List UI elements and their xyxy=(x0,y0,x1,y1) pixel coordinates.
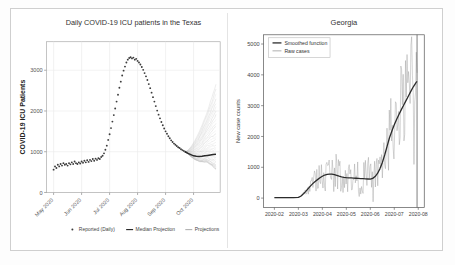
data-point xyxy=(53,169,55,171)
data-point xyxy=(153,101,155,103)
data-point xyxy=(118,87,120,89)
xtick-label: 2020-03 xyxy=(289,211,308,217)
data-point xyxy=(137,60,139,62)
xtick-label: Aug 2020 xyxy=(118,197,138,217)
legend-label: Reported (Daily) xyxy=(79,227,115,232)
data-point xyxy=(138,62,140,64)
data-point xyxy=(172,141,174,143)
data-point xyxy=(148,83,150,85)
data-point xyxy=(155,105,157,107)
data-point xyxy=(124,66,126,68)
data-point xyxy=(76,163,78,165)
data-point xyxy=(163,128,165,130)
ytick-label: 3000 xyxy=(247,103,259,109)
data-point xyxy=(72,163,74,165)
chart-legend: Reported (Daily)Median ProjectionProject… xyxy=(71,227,219,232)
ytick-label: 2000 xyxy=(30,108,42,114)
data-point xyxy=(110,127,112,129)
data-point xyxy=(102,155,104,157)
chart-panel-georgia-cases: Georgia010002000300040005000New case cou… xyxy=(227,9,442,250)
xtick-label: 2020-02 xyxy=(265,211,284,217)
data-point xyxy=(165,130,167,132)
data-point xyxy=(169,137,171,139)
data-point xyxy=(69,163,71,165)
data-point xyxy=(151,92,153,94)
data-point xyxy=(82,162,84,164)
data-point xyxy=(145,75,147,77)
ytick-label: 0 xyxy=(40,190,43,196)
y-axis-label: COVID-19 ICU Patients xyxy=(19,80,26,155)
data-point xyxy=(135,58,137,60)
data-point xyxy=(83,160,85,162)
data-point xyxy=(86,159,88,161)
data-point xyxy=(61,165,63,167)
data-point xyxy=(74,161,76,163)
data-point xyxy=(88,161,90,163)
chart-title: Daily COVID-19 ICU patients in the Texas xyxy=(66,18,202,27)
data-point xyxy=(142,69,144,71)
figure-frame: Daily COVID-19 ICU patients in the Texas… xyxy=(10,8,443,251)
data-point xyxy=(167,135,169,137)
xtick-label: 2020-04 xyxy=(313,211,332,217)
data-point xyxy=(144,72,146,74)
data-point xyxy=(103,152,105,154)
data-point xyxy=(67,165,69,167)
data-point xyxy=(159,117,161,119)
data-point xyxy=(92,158,94,160)
xtick-label: Jul 2020 xyxy=(92,197,111,216)
data-point xyxy=(121,75,123,77)
data-point xyxy=(146,79,148,81)
data-point xyxy=(71,161,73,163)
data-point xyxy=(60,163,62,165)
xtick-label: Jun 2020 xyxy=(63,197,83,217)
ytick-label: 4000 xyxy=(247,72,259,78)
data-point xyxy=(132,57,134,59)
data-point xyxy=(96,159,98,161)
figure-root: Daily COVID-19 ICU patients in the Texas… xyxy=(0,0,455,265)
data-point xyxy=(127,59,129,61)
xtick-label: 2020-05 xyxy=(337,211,356,217)
chart-panel-texas-icu: Daily COVID-19 ICU patients in the Texas… xyxy=(13,9,227,250)
xtick-label: Sep 2020 xyxy=(146,197,166,217)
data-point xyxy=(111,121,113,123)
data-point xyxy=(139,64,141,66)
ytick-label: 1000 xyxy=(247,164,259,170)
data-point xyxy=(156,110,158,112)
data-point xyxy=(116,101,118,103)
data-point xyxy=(123,70,125,72)
data-point xyxy=(158,114,160,116)
data-point xyxy=(170,139,172,141)
ytick-label: 1000 xyxy=(30,149,42,155)
data-point xyxy=(93,160,95,162)
data-point xyxy=(120,81,122,83)
data-point xyxy=(114,108,116,110)
georgia-cases-chart-svg: Georgia010002000300040005000New case cou… xyxy=(227,9,442,250)
data-point xyxy=(90,160,92,162)
ytick-label: 5000 xyxy=(247,41,259,47)
legend-label: Median Projection xyxy=(136,227,176,232)
data-point xyxy=(152,96,154,98)
xtick-label: Oct 2020 xyxy=(175,197,195,217)
data-point xyxy=(162,124,164,126)
xtick-label: 2020-06 xyxy=(361,211,380,217)
data-point xyxy=(99,158,101,160)
data-point xyxy=(79,163,81,165)
chart-legend: Smoothed functionRaw cases xyxy=(269,38,330,58)
data-point xyxy=(141,66,143,68)
ytick-label: 2000 xyxy=(247,134,259,140)
data-point xyxy=(106,145,108,147)
data-point xyxy=(55,167,57,169)
legend-marker xyxy=(71,229,73,231)
data-point xyxy=(160,121,162,123)
xtick-label: 2020-08 xyxy=(409,211,428,217)
ytick-label: 3000 xyxy=(30,67,42,73)
ytick-label: 0 xyxy=(257,195,260,201)
legend-label: Smoothed function xyxy=(284,40,327,46)
y-axis-label: New case counts xyxy=(235,99,241,143)
data-point xyxy=(85,161,87,163)
data-point xyxy=(62,162,64,164)
data-point xyxy=(149,87,151,89)
legend-label: Raw cases xyxy=(284,48,310,54)
data-point xyxy=(58,165,60,167)
data-point xyxy=(109,133,111,135)
